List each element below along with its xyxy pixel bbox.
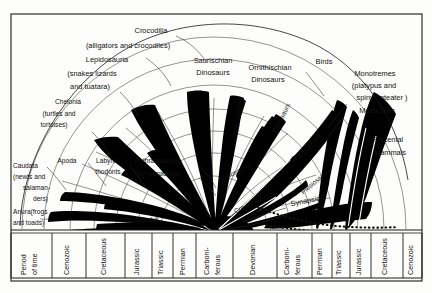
time-axis-header-line-2: of time [30, 253, 39, 275]
time-period-label-cretaceous-right: Cretaceous [380, 238, 389, 275]
taxon-label-ornithischian-1: Ornithischian [248, 63, 291, 72]
taxon-label-chelonia: Chelonia [55, 98, 81, 105]
time-period-label-triassic-left: Triassic [156, 250, 165, 275]
taxon-label-crocodilia-common: (alligators and crocodiles) [86, 41, 170, 50]
taxon-label-caudata-common-1: (newts and [13, 173, 46, 181]
taxon-label-saurischian-2: Dinosaurs [196, 68, 230, 77]
taxon-label-monotremes: Monotremes [354, 69, 395, 78]
time-period-label-carboniferous-left: Carboni- [202, 247, 211, 275]
time-axis-header-line-1: Period [19, 254, 28, 275]
taxon-label-labyrinthodonts-1: Labyrin- [96, 157, 120, 165]
time-period-label-jurassic-right: Jurassic [354, 248, 363, 275]
taxon-label-labyrinthodonts-2: thodonts [95, 168, 121, 175]
taxon-label-crocodilia: Crocodilia [135, 26, 169, 35]
taxon-label-lepidosauria-common-2: and tuatara) [70, 82, 110, 91]
time-period-label-cenozoic-left: Cenozoic [62, 245, 71, 275]
time-period-label-jurassic-left: Jurassic [132, 248, 141, 275]
time-period-label-cretaceous-left: Cretaceous [99, 238, 108, 275]
taxon-label-chelonia-common-2: tortoises) [40, 121, 67, 129]
time-period-label-permian-left: Permian [178, 248, 187, 275]
taxon-label-lepidosauria: Lepidosauria [86, 55, 129, 64]
taxon-label-lepospondyli: Lepospondyli [120, 216, 159, 224]
phylogeny-figure-root: Crocodilia(alligators and crocodiles)Lep… [0, 0, 432, 293]
time-period-label-carboniferous-right-line2: ferous [293, 255, 302, 275]
taxon-label-placental-2: Mammals [374, 148, 406, 157]
taxon-label-monotremes-common-1: (platypus and [352, 81, 396, 90]
taxon-label-apoda: Apoda [57, 157, 76, 165]
taxon-label-birds: Birds [316, 57, 333, 66]
time-period-label-triassic-right: Triassic [334, 250, 343, 275]
taxon-label-monotremes-common-2: spiny anteater ) [357, 93, 408, 102]
taxon-label-caudata: Caudata [13, 162, 38, 169]
time-period-label-permian-right: Permian [315, 248, 324, 275]
taxon-label-marsupials: Marsupials [359, 106, 395, 115]
taxon-label-caudata-common-2: salaman- [23, 184, 50, 191]
taxon-label-anura-common: and toads) [13, 219, 44, 227]
taxon-label-lepidosauria-common-1: (snakes lizards [67, 69, 117, 78]
taxon-label-placental-1: Placental [373, 135, 404, 144]
time-period-label-cenozoic-right: Cenozoic [406, 245, 415, 275]
time-period-label-carboniferous-left-line2: ferous [213, 255, 222, 275]
taxon-label-saurischian-1: Saurischian [194, 56, 233, 65]
time-period-label-carboniferous-right: Carboni- [282, 247, 291, 275]
taxon-label-anthracosauria: Anthracosauria [135, 157, 180, 164]
taxon-label-temnospondyli: Temnospondyli [136, 170, 181, 178]
taxon-label-anura: Anura(frogs [13, 208, 48, 216]
taxon-label-chelonia-common-1: (turtles and [43, 110, 76, 118]
taxon-label-ornithischian-2: Dinosaurs [251, 75, 285, 84]
vertebrate-phylogeny-diagram: Crocodilia(alligators and crocodiles)Lep… [0, 0, 432, 293]
taxon-label-caudata-common-3: ders) [33, 195, 48, 203]
time-period-label-devonian: Devonian [248, 245, 257, 275]
